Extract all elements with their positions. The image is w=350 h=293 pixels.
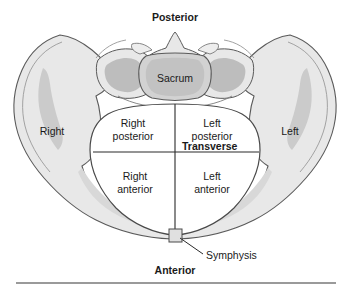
symphysis-pubis-block [169,229,182,242]
diagram-canvas: Posterior Anterior Right Left Sacrum Sym… [0,0,350,293]
label-left: Left [281,125,299,137]
quadrant-left-anterior-line2: anterior [194,183,230,195]
quadrant-right-anterior-line2: anterior [117,183,153,195]
quadrant-left-posterior-line2: posterior [192,130,233,142]
label-anterior: Anterior [155,264,196,276]
sacral-spinous-process [150,32,200,55]
label-symphysis: Symphysis [206,249,257,261]
quadrant-right-anterior-line1: Right [123,170,148,182]
quadrant-left-anterior-line1: Left [203,170,221,182]
symphysis-leader-line [180,238,203,254]
quadrant-right-posterior-line1: Right [121,117,146,129]
quadrant-left-posterior-line1: Left [203,117,221,129]
label-posterior: Posterior [152,11,198,23]
quadrant-right-posterior-line2: posterior [113,130,154,142]
label-sacrum: Sacrum [157,72,193,84]
label-right: Right [40,125,65,137]
pelvis-quadrant-diagram: Posterior Anterior Right Left Sacrum Sym… [0,0,350,293]
